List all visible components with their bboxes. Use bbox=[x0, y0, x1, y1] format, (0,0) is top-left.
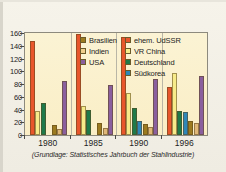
legend-item: Indien bbox=[80, 46, 117, 56]
x-axis-tick-mark bbox=[115, 135, 116, 139]
legend-swatch bbox=[80, 48, 86, 54]
legend-column-left: BrasilienIndienUSA bbox=[80, 35, 117, 78]
y-axis-tick-mark bbox=[20, 84, 24, 85]
bar bbox=[108, 85, 113, 135]
y-axis-tick-mark bbox=[20, 71, 24, 72]
bar bbox=[62, 81, 67, 135]
bar bbox=[183, 112, 188, 135]
bar bbox=[97, 123, 102, 135]
bar bbox=[57, 129, 62, 135]
legend-item: USA bbox=[80, 57, 117, 67]
x-axis-tick-mark bbox=[161, 135, 162, 139]
legend-label: USA bbox=[89, 58, 104, 67]
chart-caption: (Grundlage: Statistisches Jahrbuch der S… bbox=[0, 151, 226, 158]
legend-item: VR China bbox=[125, 46, 181, 56]
bar bbox=[103, 128, 108, 135]
bar bbox=[132, 108, 137, 135]
bar bbox=[137, 121, 142, 135]
legend-swatch bbox=[80, 37, 86, 43]
bar bbox=[143, 124, 148, 135]
bar bbox=[41, 103, 46, 136]
y-axis-tick-mark bbox=[20, 97, 24, 98]
x-axis-tick-mark bbox=[24, 135, 25, 139]
bar bbox=[126, 93, 131, 135]
bar bbox=[148, 127, 153, 135]
bar bbox=[199, 76, 204, 135]
bar bbox=[194, 123, 199, 135]
x-axis-tick-mark bbox=[70, 135, 71, 139]
bar bbox=[52, 125, 57, 135]
bar bbox=[81, 106, 86, 135]
legend-swatch bbox=[125, 37, 131, 43]
bar bbox=[172, 73, 177, 135]
bar bbox=[188, 121, 193, 135]
y-axis-tick-mark bbox=[20, 33, 24, 34]
x-axis-tick-label: 1985 bbox=[84, 138, 103, 148]
y-axis-tick-mark bbox=[20, 59, 24, 60]
bar bbox=[167, 87, 172, 135]
x-axis-tick-label: 1996 bbox=[175, 138, 194, 148]
legend-label: ehem. UdSSR bbox=[134, 36, 181, 45]
bar bbox=[35, 111, 40, 135]
legend-item: ehem. UdSSR bbox=[125, 35, 181, 45]
bar bbox=[30, 41, 35, 135]
legend-label: Südkorea bbox=[134, 69, 165, 78]
bar bbox=[177, 111, 182, 135]
legend-item: Deutschland bbox=[125, 57, 181, 67]
x-axis: 1980198519901996 bbox=[24, 138, 208, 151]
legend-item: Brasilien bbox=[80, 35, 117, 45]
y-axis-tick-mark bbox=[20, 110, 24, 111]
legend-swatch bbox=[125, 59, 131, 65]
legend-label: VR China bbox=[134, 47, 165, 56]
legend-swatch bbox=[125, 48, 131, 54]
legend-label: Indien bbox=[89, 47, 109, 56]
bar bbox=[86, 110, 91, 135]
x-axis-tick-label: 1980 bbox=[38, 138, 57, 148]
legend-label: Brasilien bbox=[89, 36, 117, 45]
legend-column-right: ehem. UdSSRVR ChinaDeutschlandSüdkorea bbox=[125, 35, 181, 78]
chart-legend: BrasilienIndienUSA ehem. UdSSRVR ChinaDe… bbox=[78, 34, 183, 79]
x-axis-tick-label: 1990 bbox=[129, 138, 148, 148]
legend-label: Deutschland bbox=[134, 58, 175, 67]
scan-edge-top bbox=[0, 0, 226, 2]
bar-group bbox=[25, 33, 71, 135]
y-axis: 020406080100120140160 bbox=[0, 32, 24, 136]
legend-swatch bbox=[80, 59, 86, 65]
legend-item: Südkorea bbox=[125, 68, 181, 78]
legend-swatch bbox=[125, 70, 131, 76]
chart-figure: 020406080100120140160 1980198519901996 B… bbox=[0, 0, 226, 172]
y-axis-tick-mark bbox=[20, 122, 24, 123]
bar bbox=[153, 79, 158, 135]
y-axis-tick-mark bbox=[20, 46, 24, 47]
